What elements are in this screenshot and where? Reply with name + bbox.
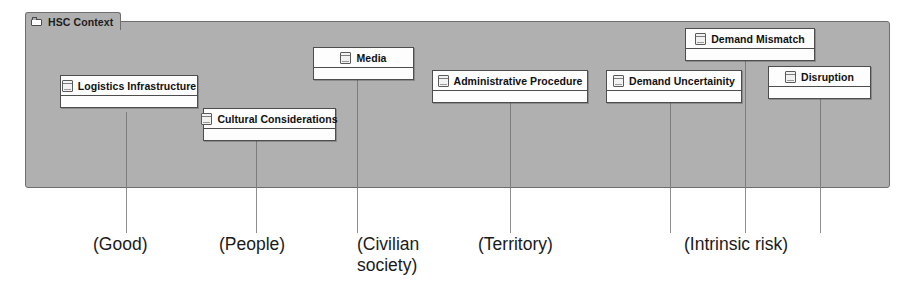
uml-node-title: Demand Mismatch <box>686 29 814 49</box>
uml-node-compartment <box>433 91 587 102</box>
uml-node-icon <box>613 75 624 87</box>
uml-node-label: Disruption <box>801 71 854 83</box>
uml-node-compartment <box>314 68 413 79</box>
leader-line-segment <box>745 60 746 188</box>
uml-node-title: Media <box>314 48 413 68</box>
uml-node[interactable]: Cultural Considerations <box>203 108 336 141</box>
caption-label: (Intrinsic risk) <box>684 234 844 255</box>
leader-line-segment <box>510 188 511 233</box>
uml-node-label: Media <box>356 52 386 64</box>
folder-icon <box>31 17 43 26</box>
leader-line-segment <box>357 79 358 188</box>
leader-line-segment <box>126 112 127 188</box>
uml-node-icon <box>201 113 212 125</box>
uml-node[interactable]: Demand Uncertainity <box>606 70 742 103</box>
uml-node-label: Cultural Considerations <box>217 113 337 125</box>
leader-line-segment <box>357 188 358 233</box>
uml-node[interactable]: Media <box>313 47 414 80</box>
uml-node-compartment <box>607 91 741 102</box>
leader-line-segment <box>820 188 821 233</box>
uml-node-icon <box>695 33 706 45</box>
uml-node-label: Administrative Procedure <box>454 75 583 87</box>
uml-node[interactable]: Disruption <box>768 66 871 99</box>
leader-line-segment <box>820 98 821 188</box>
uml-node-label: Demand Uncertainity <box>629 75 735 87</box>
uml-node-title: Administrative Procedure <box>433 71 587 91</box>
uml-node-label: Logistics Infrastructure <box>78 80 196 92</box>
uml-node-title: Cultural Considerations <box>204 109 335 129</box>
uml-node-icon <box>62 80 73 92</box>
uml-node-title: Logistics Infrastructure <box>61 76 197 96</box>
uml-node-compartment <box>61 96 197 107</box>
leader-line-segment <box>670 102 671 188</box>
uml-node-compartment <box>204 129 335 140</box>
leader-line-segment <box>256 188 257 233</box>
uml-node[interactable]: Demand Mismatch <box>685 28 815 61</box>
leader-line-segment <box>745 188 746 233</box>
uml-node-title: Demand Uncertainity <box>607 71 741 91</box>
uml-node[interactable]: Administrative Procedure <box>432 70 588 103</box>
leader-line-segment <box>510 102 511 188</box>
uml-node-label: Demand Mismatch <box>711 33 805 45</box>
leader-line-segment <box>670 188 671 233</box>
leader-line-segment <box>126 188 127 233</box>
uml-node-icon <box>785 71 796 83</box>
caption-label: (People) <box>219 234 339 255</box>
uml-node-title: Disruption <box>769 67 870 87</box>
leader-line-segment <box>256 140 257 188</box>
uml-node[interactable]: Logistics Infrastructure <box>60 75 198 108</box>
caption-label: (Good) <box>93 234 213 255</box>
uml-node-compartment <box>686 49 814 60</box>
package-title-tab[interactable]: HSC Context <box>25 12 121 30</box>
diagram-canvas: HSC Context Logistics InfrastructureCult… <box>0 0 920 305</box>
package-title-label: HSC Context <box>48 16 113 28</box>
uml-node-icon <box>438 75 449 87</box>
uml-node-compartment <box>769 87 870 98</box>
caption-label: (Civilian society) <box>357 234 452 276</box>
uml-node-icon <box>340 52 351 64</box>
caption-label: (Territory) <box>478 234 608 255</box>
